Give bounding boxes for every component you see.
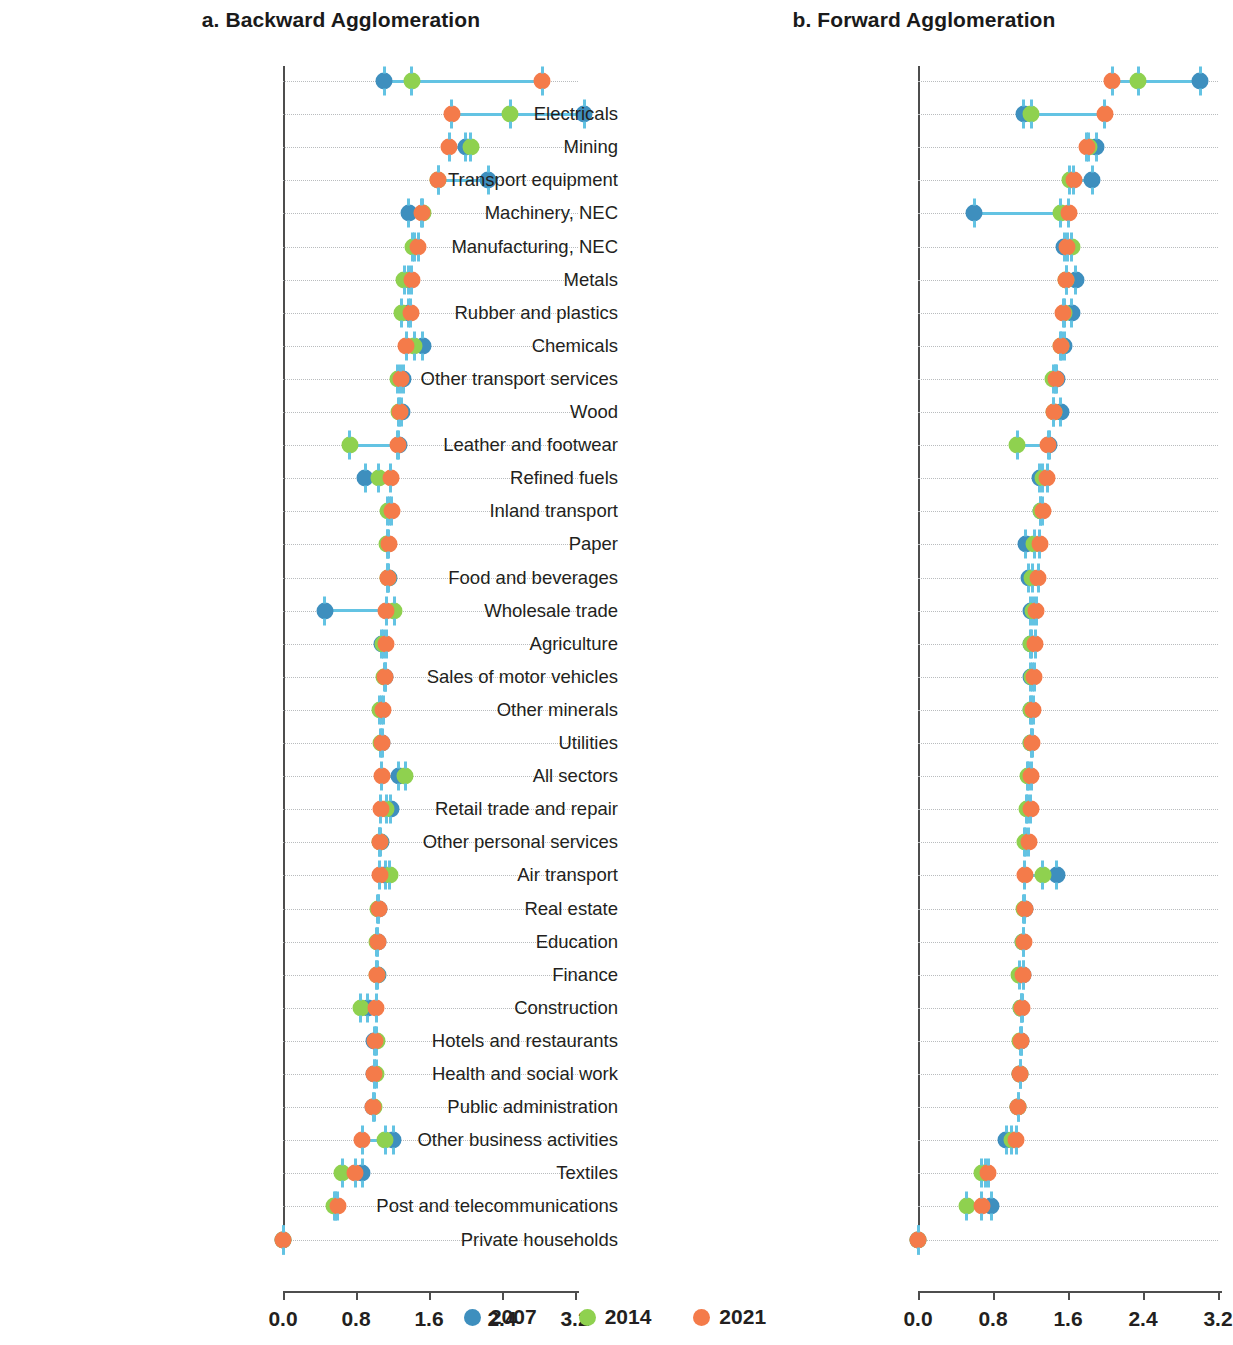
data-point-2021 bbox=[382, 470, 399, 487]
category-label: Metals bbox=[564, 270, 619, 289]
data-point-2021 bbox=[1023, 768, 1040, 785]
data-point-2021 bbox=[403, 271, 420, 288]
whisker-bottom bbox=[375, 982, 378, 989]
legend-item-2021[interactable]: 2021 bbox=[693, 1305, 766, 1329]
whisker-bottom bbox=[1010, 1148, 1013, 1155]
category-label: Agriculture bbox=[530, 634, 618, 653]
whisker-bottom bbox=[1021, 1015, 1024, 1022]
row-gridline bbox=[918, 1173, 1218, 1174]
data-point-2014 bbox=[1009, 437, 1026, 454]
category-label: Finance bbox=[552, 965, 618, 984]
row-gridline bbox=[283, 412, 578, 413]
whisker-top bbox=[1020, 1026, 1023, 1033]
x-axis bbox=[918, 1291, 1222, 1293]
data-point-2021 bbox=[402, 304, 419, 321]
whisker-top bbox=[1103, 100, 1106, 107]
category-label: Mining bbox=[564, 138, 619, 157]
plot-area-forward: ElectricalsMiningTransport equipmentMach… bbox=[918, 66, 1218, 1241]
data-point-2021 bbox=[374, 735, 391, 752]
legend-item-2007[interactable]: 2007 bbox=[464, 1305, 537, 1329]
panel-b-title: b. Forward Agglomeration bbox=[640, 8, 1230, 32]
whisker-bottom bbox=[1037, 585, 1040, 592]
category-label: Sales of motor vehicles bbox=[427, 668, 618, 687]
whisker-bottom bbox=[377, 486, 380, 493]
whisker-bottom bbox=[366, 1015, 369, 1022]
data-point-2014 bbox=[1130, 73, 1147, 90]
row-gridline bbox=[918, 942, 1218, 943]
whisker-bottom bbox=[410, 89, 413, 96]
whisker-bottom bbox=[405, 353, 408, 360]
row-gridline bbox=[283, 280, 578, 281]
data-point-2021 bbox=[430, 172, 447, 189]
data-point-2021 bbox=[378, 602, 395, 619]
whisker-top bbox=[410, 67, 413, 74]
data-point-2021 bbox=[1104, 73, 1121, 90]
data-point-2021 bbox=[410, 238, 427, 255]
whisker-top bbox=[1015, 1126, 1018, 1133]
whisker-bottom bbox=[1017, 1115, 1020, 1122]
whisker-bottom bbox=[389, 486, 392, 493]
data-point-2021 bbox=[371, 867, 388, 884]
whisker-top bbox=[361, 1159, 364, 1166]
category-label: Utilities bbox=[558, 734, 618, 753]
y-axis-spine-a bbox=[283, 66, 285, 1250]
data-point-2021 bbox=[398, 337, 415, 354]
whisker-bottom bbox=[1041, 883, 1044, 890]
legend-label: 2014 bbox=[605, 1305, 652, 1329]
category-label: Manufacturing, NEC bbox=[451, 237, 618, 256]
row-gridline bbox=[283, 544, 578, 545]
data-point-2021 bbox=[275, 1231, 292, 1248]
whisker-bottom bbox=[1199, 89, 1202, 96]
category-label: Post and telecommunications bbox=[376, 1197, 618, 1216]
legend-item-2014[interactable]: 2014 bbox=[579, 1305, 652, 1329]
whisker-bottom bbox=[1062, 320, 1065, 327]
whisker-bottom bbox=[990, 1214, 993, 1221]
whisker-top bbox=[389, 464, 392, 471]
whisker-top bbox=[1037, 563, 1040, 570]
whisker-top bbox=[384, 662, 387, 669]
whisker-bottom bbox=[1038, 552, 1041, 559]
whisker-top bbox=[420, 199, 423, 206]
data-point-2021 bbox=[391, 404, 408, 421]
category-label: Machinery, NEC bbox=[485, 204, 618, 223]
whisker-bottom bbox=[1033, 552, 1036, 559]
data-point-2014 bbox=[502, 106, 519, 123]
whisker-bottom bbox=[980, 1214, 983, 1221]
whisker-bottom bbox=[386, 585, 389, 592]
whisker-bottom bbox=[1022, 982, 1025, 989]
data-point-2021 bbox=[1065, 172, 1082, 189]
data-point-2014 bbox=[341, 437, 358, 454]
category-label: Wood bbox=[570, 403, 618, 422]
whisker-bottom bbox=[420, 221, 423, 228]
data-point-2021 bbox=[1040, 437, 1057, 454]
whisker-bottom bbox=[1022, 949, 1025, 956]
data-point-2021 bbox=[1008, 1132, 1025, 1149]
data-point-2021 bbox=[373, 768, 390, 785]
data-point-2021 bbox=[443, 106, 460, 123]
whisker-bottom bbox=[1023, 850, 1026, 857]
whisker-bottom bbox=[403, 287, 406, 294]
whisker-bottom bbox=[1059, 420, 1062, 427]
data-point-2021 bbox=[392, 370, 409, 387]
whisker-top bbox=[1055, 861, 1058, 868]
whisker-top bbox=[375, 993, 378, 1000]
whisker-top bbox=[1030, 762, 1033, 769]
whisker-bottom bbox=[1046, 486, 1049, 493]
whisker-top bbox=[380, 762, 383, 769]
whisker-top bbox=[509, 100, 512, 107]
whisker-top bbox=[1085, 133, 1088, 140]
whisker-bottom bbox=[1025, 817, 1028, 824]
whisker-top bbox=[1022, 960, 1025, 967]
whisker-top bbox=[390, 497, 393, 504]
whisker-top bbox=[393, 596, 396, 603]
x-axis-tick bbox=[1143, 1291, 1145, 1300]
data-point-2021 bbox=[1013, 1032, 1030, 1049]
data-point-2021 bbox=[367, 1032, 384, 1049]
whisker-bottom bbox=[282, 1247, 285, 1254]
whisker-bottom bbox=[388, 883, 391, 890]
whisker-bottom bbox=[1023, 916, 1026, 923]
data-point-2021 bbox=[371, 834, 388, 851]
data-point-2021 bbox=[1015, 933, 1032, 950]
whisker-top bbox=[990, 1192, 993, 1199]
whisker-bottom bbox=[1034, 651, 1037, 658]
